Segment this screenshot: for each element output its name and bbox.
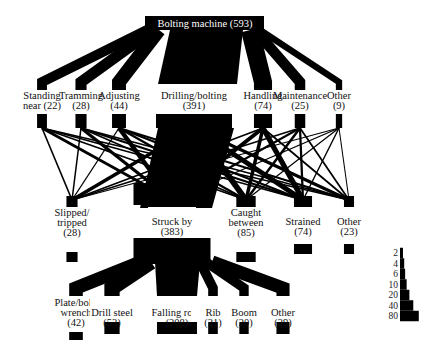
root-to-activity-links: [42, 30, 339, 90]
link-standing_near-slipped_tripped: [42, 128, 72, 200]
legend-tick-label: 10: [389, 280, 399, 290]
link-root-drilling: [158, 30, 243, 84]
accident-node-bottom-caught_between: [236, 252, 255, 262]
legend-tick-label: 2: [393, 248, 398, 258]
accident-flow-diagram: Bolting machine (593) Standingnear (22)T…: [0, 0, 432, 349]
accident-node-top-struck_by: [134, 183, 211, 205]
legend-tick-label: 4: [393, 259, 398, 269]
legend-width-step: [400, 300, 413, 311]
activity-node-stub-tramming: [75, 114, 86, 128]
legend-tick-label: 20: [389, 290, 399, 300]
accident-node-top-other_accident: [344, 196, 354, 208]
activity-node-stub-adjusting: [112, 114, 126, 128]
accident-node-bottom-strained: [294, 244, 312, 254]
accident-node-bottom-slipped_tripped: [66, 252, 77, 262]
legend-width-step: [400, 269, 405, 280]
activity-node-stub-other_activity: [336, 114, 342, 128]
accident-node-top-strained: [294, 196, 312, 208]
legend-width-step: [400, 279, 407, 290]
activity-node-stub-handling: [254, 114, 272, 128]
accident-node-bottom-struck-by: [134, 238, 211, 264]
source-label-rib: Rib(21): [204, 307, 222, 329]
legend-width-step: [400, 258, 404, 269]
link-other_activity-other_accident: [339, 128, 349, 200]
source-node-box-plate_bolt_wrench: [69, 332, 83, 340]
link-struckby-falling-rock: [155, 262, 200, 296]
legend-width-step: [400, 311, 419, 322]
line-width-legend: 24610204080: [389, 248, 419, 322]
legend-width-step: [400, 248, 403, 259]
accident-node-bottom-other_accident: [344, 244, 354, 254]
legend-tick-label: 6: [393, 269, 398, 279]
legend-width-step: [400, 290, 409, 301]
activity-node-stub-maintenance: [295, 114, 306, 128]
root-node-label: Bolting machine (593): [157, 18, 253, 30]
activity-node-stub-standing_near: [37, 114, 47, 128]
legend-tick-label: 80: [389, 311, 399, 321]
activity-node-stub-drilling_bolting: [156, 114, 232, 128]
legend-tick-label: 40: [389, 301, 399, 311]
struckby-to-source-links: [76, 262, 283, 296]
activity-label-standing_near: Standingnear (22): [23, 90, 62, 112]
